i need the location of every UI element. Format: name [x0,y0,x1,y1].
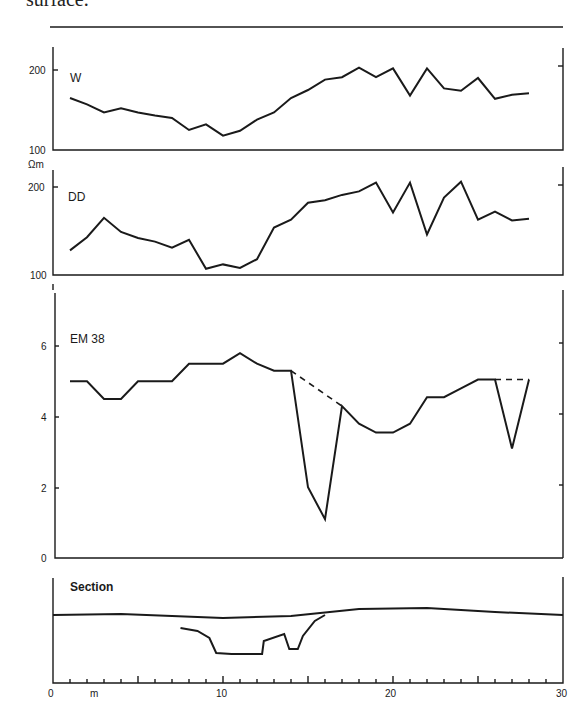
em38-tick-label-4: 4 [41,412,47,423]
w-series-line [70,68,529,136]
dd-tick-label-200: 200 [28,182,45,193]
w-panel-label: W [70,71,82,85]
section-tick-label-10: 10 [216,688,228,699]
w-axes [53,47,563,150]
em38-tick-label-6: 6 [41,341,47,352]
section-panel-label: Section [70,580,113,594]
w-tick-label-100: 100 [29,145,46,156]
dd-unit-label: Ωm [28,159,44,170]
em38-dashed-interpolation [291,371,529,406]
section-tick-label-0: 0 [48,688,54,699]
panel-section: Section 0 m 10 20 30 [48,577,568,699]
em38-panel-label: EM 38 [70,332,105,346]
section-tick-label-20: 20 [385,688,397,699]
panel-dd: Ωm 200 100 DD [28,159,563,290]
ground-surface-line [53,608,563,618]
em38-tick-label-2: 2 [41,483,47,494]
panel-em38: 6 4 2 0 EM 38 [41,290,563,564]
em38-tick-label-0: 0 [41,553,47,564]
dd-axes [53,167,563,275]
w-tick-label-200: 200 [29,65,46,76]
dd-panel-label: DD [68,190,86,204]
section-x-ticks [70,676,546,683]
panel-w: 200 100 W [29,47,563,156]
section-tick-label-30: 30 [556,688,568,699]
em38-axes [55,293,563,558]
em38-series-line [70,353,529,519]
dd-tick-label-100: 100 [30,270,47,281]
section-unit-label: m [90,688,98,699]
buried-feature-profile [181,615,326,654]
figure: 200 100 W Ωm 200 100 DD 6 4 2 0 EM 38 [0,0,588,717]
dd-series-line [70,182,529,269]
